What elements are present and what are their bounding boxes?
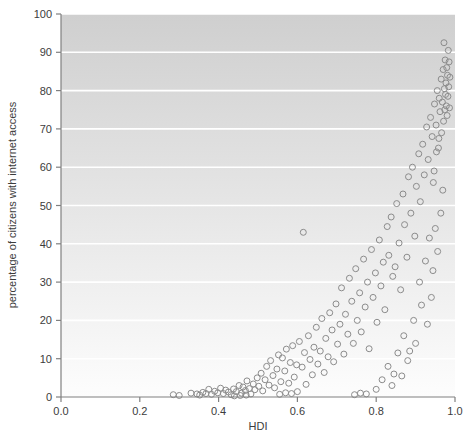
scatter-plot: 0.00.20.40.60.81.00102030405060708090100… <box>0 0 473 440</box>
x-tick-label: 1.0 <box>447 405 462 417</box>
y-tick-label: 90 <box>40 46 52 58</box>
x-tick-label: 0.2 <box>132 405 147 417</box>
x-tick-label: 0.4 <box>211 405 226 417</box>
x-tick-label: 0.6 <box>290 405 305 417</box>
y-axis-title: percentage of citizens with internet acc… <box>6 101 18 308</box>
y-tick-label: 70 <box>40 123 52 135</box>
x-tick-label: 0.8 <box>369 405 384 417</box>
chart-figure: 0.00.20.40.60.81.00102030405060708090100… <box>0 0 473 440</box>
y-tick-label: 80 <box>40 85 52 97</box>
y-tick-label: 30 <box>40 276 52 288</box>
x-axis-title: HDI <box>249 420 268 432</box>
y-tick-label: 10 <box>40 353 52 365</box>
y-tick-label: 50 <box>40 200 52 212</box>
x-tick-label: 0.0 <box>53 405 68 417</box>
y-tick-label: 40 <box>40 238 52 250</box>
y-tick-label: 0 <box>46 391 52 403</box>
y-tick-label: 20 <box>40 314 52 326</box>
y-tick-label: 100 <box>34 8 52 20</box>
y-tick-label: 60 <box>40 161 52 173</box>
